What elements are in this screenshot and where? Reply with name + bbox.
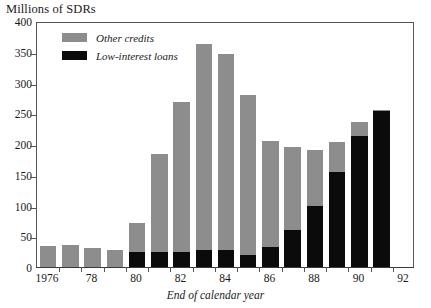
bar-segment-other-credits-1981 (151, 154, 167, 251)
chart-legend: Other creditsLow-interest loans (62, 30, 178, 66)
bar-segment-other-credits-1982 (173, 102, 189, 251)
bar-segment-other-credits-1991 (373, 110, 389, 111)
bar-segment-low-interest-loans-1987 (284, 230, 300, 267)
bar-segment-other-credits-1978 (84, 248, 100, 267)
bar-1986 (262, 141, 278, 267)
legend-label-2: Low-interest loans (96, 50, 178, 62)
bar-segment-low-interest-loans-1988 (307, 206, 323, 267)
bar-1976 (40, 246, 56, 267)
y-tick-label-250: 250 (15, 108, 32, 120)
x-tick-label-1976: 1976 (36, 272, 59, 284)
bar-segment-low-interest-loans-1981 (151, 252, 167, 267)
bar-segment-low-interest-loans-1983 (196, 250, 212, 267)
x-tick-label-90: 90 (353, 272, 365, 284)
y-tick-label-0: 0 (26, 262, 32, 274)
x-axis-title: End of calendar year (0, 289, 431, 301)
x-tick-15 (371, 267, 372, 272)
x-tick-label-92: 92 (397, 272, 409, 284)
bar-1980 (129, 223, 145, 267)
bar-1978 (84, 248, 100, 267)
x-tick-14 (348, 267, 349, 272)
y-tick-label-150: 150 (15, 170, 32, 182)
x-tick-label-82: 82 (175, 272, 187, 284)
y-tick-label-400: 400 (15, 16, 32, 28)
bar-1979 (107, 250, 123, 267)
bar-1987 (284, 147, 300, 267)
y-tick-50 (30, 238, 37, 239)
y-tick-100 (30, 208, 37, 209)
bar-segment-low-interest-loans-1991 (373, 111, 389, 267)
x-tick-7 (193, 267, 194, 272)
bar-segment-other-credits-1983 (196, 44, 212, 251)
x-tick-1 (59, 267, 60, 272)
bar-segment-other-credits-1979 (107, 250, 123, 267)
x-tick-9 (237, 267, 238, 272)
bar-1988 (307, 150, 323, 267)
x-tick-4 (126, 267, 127, 272)
x-tick-2 (81, 267, 82, 272)
legend-item-1: Other credits (62, 30, 178, 45)
bar-segment-low-interest-loans-1982 (173, 252, 189, 267)
y-tick-250 (30, 115, 37, 116)
y-tick-350 (30, 54, 37, 55)
legend-item-2: Low-interest loans (62, 48, 178, 63)
bar-1985 (240, 95, 256, 267)
y-tick-label-300: 300 (15, 78, 32, 90)
bar-1991 (373, 110, 389, 267)
x-tick-label-86: 86 (264, 272, 276, 284)
bar-segment-other-credits-1980 (129, 223, 145, 252)
bar-segment-other-credits-1984 (218, 54, 234, 250)
x-tick-label-84: 84 (219, 272, 231, 284)
x-tick-8 (215, 267, 216, 272)
bar-segment-low-interest-loans-1986 (262, 247, 278, 267)
legend-swatch-other-credits (62, 33, 87, 42)
legend-label-1: Other credits (96, 32, 154, 44)
bar-segment-low-interest-loans-1985 (240, 255, 256, 267)
y-tick-label-100: 100 (15, 201, 32, 213)
bar-segment-other-credits-1990 (351, 122, 367, 136)
x-tick-3 (104, 267, 105, 272)
x-tick-13 (326, 267, 327, 272)
legend-swatch-low-interest-loans (62, 51, 87, 60)
x-tick-12 (304, 267, 305, 272)
bar-segment-other-credits-1977 (62, 245, 78, 267)
x-tick-10 (259, 267, 260, 272)
chart-figure: Millions of SDRs 05010015020025030035040… (0, 0, 431, 308)
y-tick-label-200: 200 (15, 139, 32, 151)
bar-1983 (196, 44, 212, 267)
bar-segment-low-interest-loans-1990 (351, 136, 367, 267)
bar-segment-other-credits-1988 (307, 150, 323, 207)
y-tick-label-50: 50 (21, 231, 33, 243)
x-tick-label-80: 80 (130, 272, 142, 284)
x-tick-label-78: 78 (86, 272, 98, 284)
bar-1982 (173, 102, 189, 267)
bar-segment-other-credits-1976 (40, 246, 56, 267)
bar-segment-low-interest-loans-1980 (129, 252, 145, 267)
x-tick-5 (148, 267, 149, 272)
bar-1981 (151, 154, 167, 267)
x-tick-16 (393, 267, 394, 272)
y-tick-200 (30, 146, 37, 147)
bar-segment-other-credits-1989 (329, 142, 345, 172)
bar-1984 (218, 54, 234, 267)
bar-segment-other-credits-1985 (240, 95, 256, 255)
x-tick-label-88: 88 (308, 272, 320, 284)
bar-1977 (62, 245, 78, 267)
x-tick-11 (282, 267, 283, 272)
bar-1990 (351, 122, 367, 267)
bar-segment-other-credits-1986 (262, 141, 278, 247)
y-tick-label-350: 350 (15, 47, 32, 59)
bar-segment-low-interest-loans-1984 (218, 250, 234, 267)
x-tick-6 (170, 267, 171, 272)
bar-segment-low-interest-loans-1989 (329, 172, 345, 267)
bar-1989 (329, 142, 345, 267)
bar-segment-other-credits-1987 (284, 147, 300, 230)
y-tick-150 (30, 177, 37, 178)
y-axis-tick-labels: 050100150200250300350400 (0, 0, 32, 308)
y-tick-300 (30, 85, 37, 86)
